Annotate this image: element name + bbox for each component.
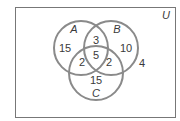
region-a-and-b: 3	[93, 34, 99, 46]
region-a-b-c: 5	[93, 49, 99, 61]
region-c-only: 15	[90, 74, 102, 86]
region-b-only: 10	[120, 42, 132, 54]
region-a-and-c: 2	[79, 56, 85, 68]
universe-label: U	[162, 9, 170, 21]
set-c-label: C	[92, 87, 100, 99]
set-a-label: A	[69, 23, 77, 35]
region-a-only: 15	[59, 42, 71, 54]
set-b-label: B	[113, 23, 120, 35]
universe-rectangle	[16, 8, 176, 118]
region-outside: 4	[139, 57, 145, 69]
region-b-and-c: 2	[106, 56, 112, 68]
venn-diagram: U A B C 15 10 15 3 2 2 5 4	[0, 0, 180, 121]
